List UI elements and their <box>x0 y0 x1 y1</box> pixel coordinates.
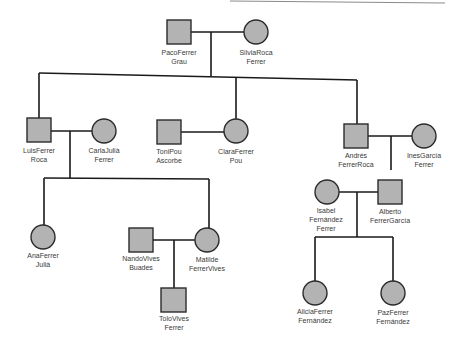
label-line: Roca <box>4 155 74 164</box>
label-line: ToloVives <box>139 314 209 323</box>
top-edge-line <box>230 1 445 3</box>
label-line: ClaraFerrer <box>201 147 271 156</box>
label-line: Pou <box>201 156 271 165</box>
node-ines-circle[interactable] <box>412 124 436 148</box>
label-line: CarlaJulià <box>69 146 139 155</box>
label-line: Ferrer <box>389 160 459 169</box>
label-line: PazFerrer <box>358 308 428 317</box>
label-ana: AnaFerrer Julià <box>8 251 78 269</box>
sibling-bar-luis-carla <box>44 178 209 179</box>
label-nando: NandoVives Buades <box>106 254 176 272</box>
label-line: Ferrer <box>139 323 209 332</box>
node-ana-circle[interactable] <box>31 225 55 249</box>
node-nando-square[interactable] <box>129 228 153 252</box>
node-paco-square[interactable] <box>167 20 191 44</box>
label-isabel: Isabel Fernández Ferrer <box>291 206 361 233</box>
label-luis: LuisFerrer Roca <box>4 146 74 164</box>
node-alberto-square[interactable] <box>378 180 402 204</box>
label-line: Alberto <box>355 207 425 216</box>
label-tolo: ToloVives Ferrer <box>139 314 209 332</box>
node-luis-square[interactable] <box>27 118 51 142</box>
label-line: Andrés <box>321 151 391 160</box>
label-ines: InesGarcía Ferrer <box>389 151 459 169</box>
label-line: ToniPou <box>134 147 204 156</box>
label-line: SilviaRoca <box>221 48 291 57</box>
label-line: NandoVives <box>106 254 176 263</box>
label-line: LuisFerrer <box>4 146 74 155</box>
label-line: Ferrer <box>221 57 291 66</box>
node-carla-circle[interactable] <box>92 119 116 143</box>
label-line: Fernández <box>280 316 350 325</box>
node-clara-circle[interactable] <box>224 119 248 143</box>
label-line: Fernández <box>291 215 361 224</box>
label-paz: PazFerrer Fernández <box>358 308 428 326</box>
label-paco: PacoFerrer Grau <box>144 48 214 66</box>
label-line: Grau <box>144 57 214 66</box>
node-matilde-circle[interactable] <box>195 228 219 252</box>
label-line: AnaFerrer <box>8 251 78 260</box>
sibling-bar-gen2 <box>39 73 357 80</box>
label-line: Ferrer <box>69 155 139 164</box>
label-line: Ferrer <box>291 224 361 233</box>
label-clara: ClaraFerrer Pou <box>201 147 271 165</box>
node-tolo-square[interactable] <box>161 288 186 312</box>
label-line: FerrerRoca <box>321 160 391 169</box>
label-line: FerrerGarcía <box>355 216 425 225</box>
label-carla: CarlaJulià Ferrer <box>69 146 139 164</box>
label-line: Matilde <box>172 255 242 264</box>
label-silvia: SilviaRoca Ferrer <box>221 48 291 66</box>
label-matilde: Matilde FerrerVives <box>172 255 242 273</box>
label-line: Isabel <box>291 206 361 215</box>
node-paz-circle[interactable] <box>381 281 405 305</box>
node-toni-square[interactable] <box>157 120 181 144</box>
label-alberto: Alberto FerrerGarcía <box>355 207 425 225</box>
node-silvia-circle[interactable] <box>244 20 268 44</box>
label-alicia: AliciaFerrer Fernández <box>280 307 350 325</box>
label-line: FerrerVives <box>172 264 242 273</box>
node-andres-square[interactable] <box>344 124 368 148</box>
label-line: InesGarcía <box>389 151 459 160</box>
label-line: AliciaFerrer <box>280 307 350 316</box>
label-line: Julià <box>8 260 78 269</box>
label-line: Ascorbe <box>134 156 204 165</box>
node-isabel-circle[interactable] <box>315 180 339 204</box>
label-toni: ToniPou Ascorbe <box>134 147 204 165</box>
label-line: Buades <box>106 263 176 272</box>
label-line: Fernández <box>358 317 428 326</box>
label-line: PacoFerrer <box>144 48 214 57</box>
label-andres: Andrés FerrerRoca <box>321 151 391 169</box>
node-alicia-circle[interactable] <box>303 281 327 305</box>
